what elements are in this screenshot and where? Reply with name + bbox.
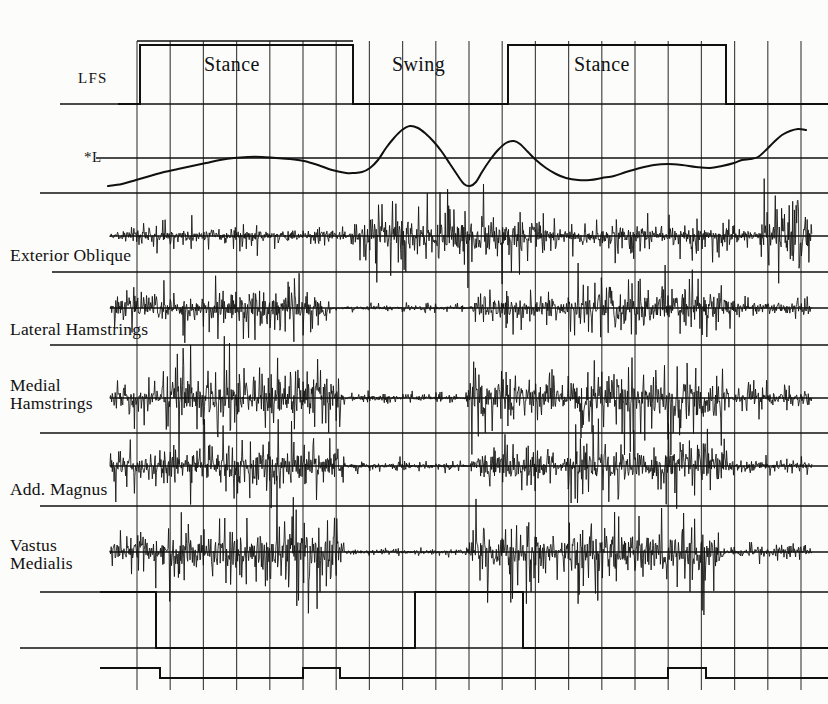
emg-trace-medial-hamstrings — [110, 336, 812, 464]
emg-trace-lateral-hamstrings — [110, 263, 812, 343]
footswitch-trace-bottom-footswitch-lower — [100, 668, 828, 678]
channel-label-vastus-medialis: Vastus Medialis — [10, 536, 73, 573]
separator-rule-layer — [20, 104, 828, 648]
phase-label-stance-1: Stance — [204, 54, 260, 75]
kinematic-trace-layer — [96, 126, 828, 186]
channel-label-medial-hamstrings: Medial Hamstrings — [10, 376, 93, 413]
phase-label-stance-2: Stance — [574, 54, 630, 75]
channel-label-exterior-oblique: Exterior Oblique — [10, 246, 131, 264]
emg-chart-sheet: LFS *L Stance Swing Stance Exterior Obli… — [0, 0, 828, 704]
channel-label-add-magnus: Add. Magnus — [10, 480, 107, 498]
phase-label-swing: Swing — [392, 54, 445, 75]
footswitch-trace-bottom-footswitch-upper — [100, 592, 828, 648]
footswitch-trace-layer — [100, 45, 828, 678]
emg-chart-svg — [0, 0, 828, 704]
axis-label-lfs: LFS — [78, 71, 108, 87]
emg-trace-vastus-medialis — [110, 476, 812, 615]
axis-label-star-l: *L — [84, 150, 102, 166]
channel-label-lateral-hamstrings: Lateral Hamstrings — [10, 320, 148, 338]
